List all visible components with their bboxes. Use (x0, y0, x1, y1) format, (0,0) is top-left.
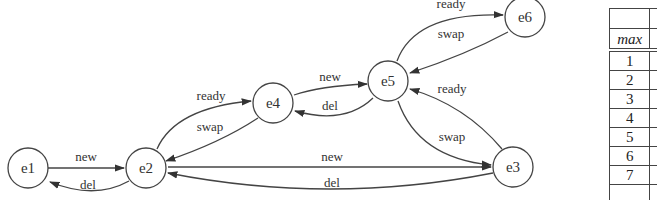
table-cell (650, 147, 657, 166)
table-cell (650, 52, 657, 71)
table-row: 3 (610, 90, 657, 109)
row-index: 1 (610, 52, 650, 71)
table-row: 7 (610, 166, 657, 185)
table-row (610, 185, 657, 201)
table-row: 4 (610, 109, 657, 128)
edge-e4-e5-new (294, 84, 367, 95)
max-label: max (610, 29, 650, 49)
edge-label: new (75, 149, 97, 164)
table-row: 2 (610, 71, 657, 90)
edge-label: swap (197, 119, 224, 134)
edge-label: new (319, 69, 341, 84)
table-row: 5 (610, 128, 657, 147)
edge-label: swap (438, 26, 465, 41)
edge-label: del (324, 175, 340, 190)
state-diagram: new del ready swap new del ready swap re… (0, 0, 657, 200)
max-table: max 1 2 3 4 5 6 7 (609, 8, 657, 200)
table-header-cell (610, 9, 650, 29)
node-label: e5 (381, 73, 395, 89)
row-index: 2 (610, 71, 650, 90)
edge-label: del (80, 177, 96, 192)
row-index: 3 (610, 90, 650, 109)
table-row: 6 (610, 147, 657, 166)
table-cell (650, 185, 657, 201)
table-header-cell (650, 9, 657, 29)
edge-label: swap (439, 129, 466, 144)
table-cell (650, 90, 657, 109)
row-index (610, 185, 650, 201)
edge-label: ready (437, 0, 466, 11)
node-label: e2 (139, 160, 153, 176)
node-label: e6 (518, 9, 533, 25)
node-label: e1 (21, 160, 35, 176)
row-index: 4 (610, 109, 650, 128)
table-cell (650, 71, 657, 90)
row-index: 6 (610, 147, 650, 166)
row-index: 5 (610, 128, 650, 147)
edge-label: ready (197, 88, 226, 103)
node-label: e3 (506, 159, 520, 175)
edge-label: ready (438, 81, 467, 96)
table-cell (650, 109, 657, 128)
edge-label: del (322, 98, 338, 113)
row-index: 7 (610, 166, 650, 185)
table-cell (650, 166, 657, 185)
table-row: 1 (610, 52, 657, 71)
node-label: e4 (266, 95, 281, 111)
edge-label: new (321, 149, 343, 164)
table-cell (650, 29, 657, 49)
table-cell (650, 128, 657, 147)
